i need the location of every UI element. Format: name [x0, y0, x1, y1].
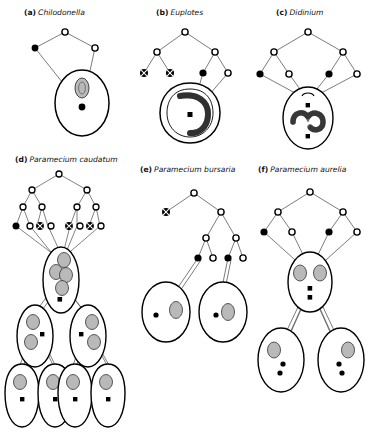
- macronucleus: [75, 78, 89, 98]
- macronucleus: [342, 342, 355, 358]
- node-open: [340, 209, 346, 215]
- node-crossed: [166, 69, 174, 77]
- node-filled: [32, 45, 39, 52]
- micronucleus: [58, 297, 63, 302]
- cell-daughter-left-f: [258, 328, 304, 392]
- cell-generation-1: [43, 247, 79, 313]
- micronucleus: [308, 295, 313, 300]
- node-open: [271, 49, 277, 55]
- panel-chilodonella: (a)Chilodonella: [0, 0, 124, 150]
- macronucleus: [222, 304, 235, 321]
- node-open: [233, 235, 239, 241]
- cell-right-e: [199, 282, 247, 342]
- node-open: [218, 209, 224, 215]
- node-open: [286, 71, 292, 77]
- macronucleus: [88, 335, 101, 350]
- node-crossed: [162, 208, 170, 216]
- micronucleus: [53, 397, 57, 401]
- cell-group-a: [55, 70, 109, 136]
- node-open: [225, 70, 231, 76]
- node-open: [305, 29, 311, 35]
- node-filled: [256, 70, 263, 77]
- panel-paramecium-bursaria: (e)Paramecium bursaria: [140, 160, 258, 340]
- cell-group-b: [160, 83, 220, 143]
- node-open: [29, 187, 35, 193]
- node-open: [203, 235, 209, 241]
- node-open: [93, 204, 99, 210]
- node-crossed: [65, 222, 73, 230]
- macronucleus: [56, 281, 69, 296]
- node-open: [27, 223, 33, 229]
- node-crossed: [86, 222, 94, 230]
- node-open: [84, 187, 90, 193]
- micronucleus: [79, 104, 86, 111]
- cell-body: [318, 328, 364, 392]
- node-filled: [224, 254, 231, 261]
- node-crossed: [36, 222, 44, 230]
- node-open: [48, 223, 54, 229]
- cell-left-e: [142, 282, 190, 342]
- node-filled: [325, 228, 332, 235]
- panel-paramecium-caudatum: (d)Paramecium caudatum: [0, 150, 140, 438]
- micronucleus: [40, 332, 44, 336]
- nodes-f: [260, 189, 360, 236]
- cell-parent-f: [288, 252, 332, 312]
- node-open: [39, 204, 45, 210]
- cell-body: [58, 364, 92, 427]
- diagram-b: [124, 0, 246, 155]
- node-open: [92, 45, 98, 51]
- cell-body: [142, 282, 190, 342]
- macronucleus: [86, 315, 99, 330]
- cell-generation-3: [5, 364, 125, 427]
- micronucleus: [308, 286, 313, 291]
- micronucleus: [277, 370, 282, 375]
- node-open: [154, 49, 160, 55]
- node-filled: [260, 228, 267, 235]
- panel-didinium: (c)Didinium: [246, 0, 371, 155]
- micronucleus: [106, 397, 110, 401]
- macronucleus: [314, 265, 327, 281]
- diagram-f: [252, 160, 371, 410]
- node-open: [20, 204, 26, 210]
- node-open: [240, 255, 246, 261]
- micronucleus: [306, 134, 310, 138]
- cell-body: [91, 364, 125, 427]
- node-open: [307, 189, 313, 195]
- node-open: [212, 49, 218, 55]
- micronucleus: [153, 312, 158, 317]
- diagram-c: [246, 0, 371, 155]
- node-open: [191, 190, 197, 196]
- nodes-e: [162, 190, 246, 262]
- micronucleus: [306, 103, 310, 107]
- cell-daughter-right-f: [318, 328, 364, 392]
- node-filled: [194, 254, 201, 261]
- panel-euplotes: (b)Euplotes: [124, 0, 246, 155]
- node-open: [354, 71, 360, 77]
- macronucleus: [25, 335, 38, 350]
- macronucleus: [100, 375, 113, 390]
- node-filled: [325, 70, 332, 77]
- cell-body: [288, 252, 332, 312]
- diagram-e: [140, 160, 258, 340]
- node-filled: [13, 223, 20, 230]
- micronucleus: [79, 332, 83, 336]
- node-open: [340, 49, 346, 55]
- macronucleus: [294, 265, 307, 281]
- micronucleus: [339, 370, 344, 375]
- micronucleus: [280, 361, 285, 366]
- cell-apex: [302, 93, 314, 96]
- node-open: [275, 209, 281, 215]
- micronucleus: [73, 397, 77, 401]
- nodes-c: [256, 29, 360, 78]
- cell-body: [258, 328, 304, 392]
- node-open: [289, 229, 295, 235]
- micronucleus: [336, 361, 341, 366]
- node-open: [98, 223, 104, 229]
- node-open: [354, 229, 360, 235]
- cell-group-c: [283, 87, 333, 149]
- cell-body: [5, 364, 39, 427]
- micronucleus: [20, 397, 24, 401]
- node-filled: [199, 69, 206, 76]
- macronucleus: [27, 315, 40, 330]
- macronucleus: [67, 375, 80, 390]
